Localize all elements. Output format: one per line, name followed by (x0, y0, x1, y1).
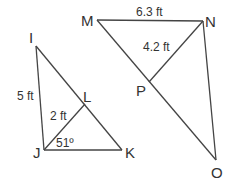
triangle-ijk (36, 46, 122, 150)
vertex-label-o: O (211, 164, 223, 181)
vertex-label-m: M (81, 12, 94, 29)
segment-no (203, 21, 216, 160)
vertex-label-n: N (205, 13, 216, 30)
vertex-label-p: P (136, 82, 146, 99)
segment-ik (36, 46, 122, 150)
measurement-np: 4.2 ft (143, 40, 170, 54)
measurement-mn: 6.3 ft (136, 5, 163, 19)
vertex-label-k: K (125, 144, 135, 161)
vertex-label-i: I (29, 29, 33, 46)
measurement-jl: 2 ft (50, 109, 67, 123)
vertex-label-j: J (33, 144, 41, 161)
measurement-angle-j: 51º (56, 136, 74, 150)
geometry-diagram: I J K L M N O P 5 ft 2 ft 51º 6.3 ft 4.2… (0, 0, 232, 190)
segment-mn (97, 20, 203, 21)
vertex-label-l: L (83, 88, 91, 105)
measurement-ij: 5 ft (17, 89, 34, 103)
segment-ij (36, 46, 44, 150)
